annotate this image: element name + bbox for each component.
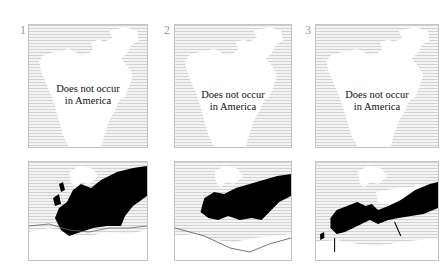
panel-number-1: 1 — [20, 24, 26, 36]
not-in-america-label-2: Does not occur in America — [175, 89, 291, 113]
america-map-1: Does not occur in America — [28, 24, 148, 148]
panel-number-3: 3 — [305, 24, 311, 36]
europe-map-3 — [315, 161, 439, 261]
north-america-landmass — [316, 25, 438, 147]
europe-map-1 — [28, 161, 148, 261]
north-america-landmass — [175, 25, 291, 147]
europe-range-map-2 — [175, 162, 291, 260]
panel-number-2: 2 — [164, 24, 170, 36]
europe-map-2 — [174, 161, 292, 261]
europe-range-map-3 — [316, 162, 438, 260]
not-in-america-label-1: Does not occur in America — [29, 83, 147, 107]
not-in-america-label-3: Does not occur in America — [316, 89, 438, 113]
europe-range-map-1 — [29, 162, 147, 260]
america-map-3: Does not occur in America — [315, 24, 439, 148]
america-map-2: Does not occur in America — [174, 24, 292, 148]
